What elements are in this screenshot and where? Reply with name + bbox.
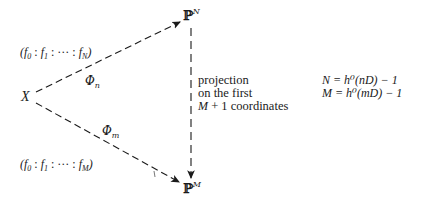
node-x: X <box>21 89 30 105</box>
projection-line-3: M + 1 coordinates <box>198 100 288 113</box>
label-phi-n: Φn <box>85 74 100 90</box>
projective-space-symbol: ℙ <box>183 181 193 196</box>
node-projective-space-n: ℙN <box>183 5 200 24</box>
node-projective-space-m: ℙM <box>183 178 201 197</box>
small-tick <box>154 171 155 177</box>
projection-label: projection on the first M + 1 coordinate… <box>198 74 288 113</box>
equations: N = h⁰(nD) − 1 M = h⁰(mD) − 1 <box>322 74 402 100</box>
coords-lower: (f0 : f1 : ··· : fM) <box>20 157 93 173</box>
equation-m: M = h⁰(mD) − 1 <box>322 87 402 100</box>
projective-space-symbol: ℙ <box>183 8 193 23</box>
label-phi-m: Φm <box>102 124 119 140</box>
coords-upper: (f0 : f1 : ··· : fN) <box>20 45 91 61</box>
